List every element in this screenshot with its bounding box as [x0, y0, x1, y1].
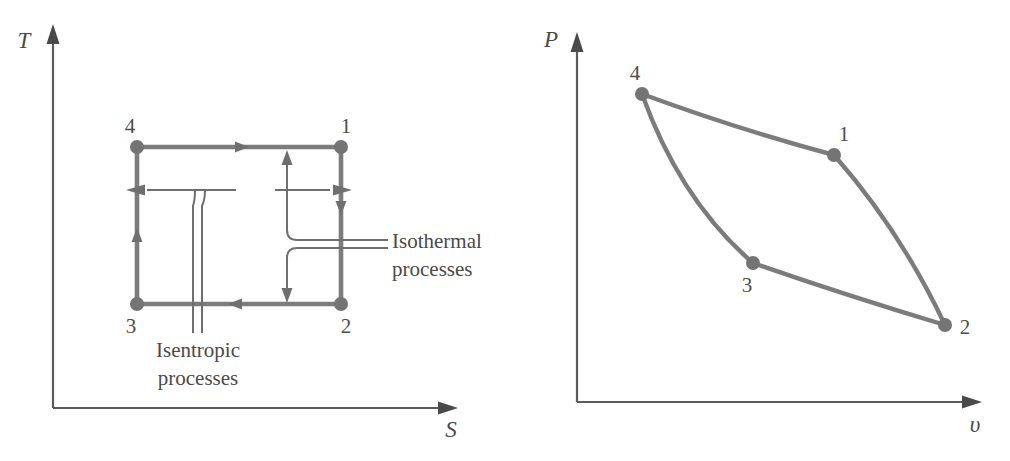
pv-state-point-2: [938, 318, 952, 332]
ts-state-point-2: [334, 297, 348, 311]
pv-state-label-3: 3: [742, 273, 753, 297]
ts-isothermal-leader-lower: [287, 248, 388, 292]
ts-state-label-1: 1: [341, 114, 352, 138]
ts-isothermal-callout-line2: processes: [392, 257, 472, 281]
ts-flow-arrow-right: [336, 201, 347, 215]
pv-state-point-4: [635, 87, 649, 101]
pv-state-label-2: 2: [960, 315, 971, 339]
figure-canvas: 4 1 2 3 T S Isothermal processes Isentro…: [0, 0, 1010, 461]
ts-isentropic-callout-line1: Isentropic: [156, 338, 240, 362]
pv-state-point-1: [827, 148, 841, 162]
pv-state-point-3: [746, 256, 760, 270]
ts-state-label-4: 4: [125, 114, 136, 138]
ts-isothermal-callout-line1: Isothermal: [392, 229, 482, 253]
ts-state-point-1: [334, 140, 348, 154]
ts-state-point-4: [130, 140, 144, 154]
ts-y-axis-arrowhead: [47, 24, 60, 44]
pv-process-3-to-4: [642, 94, 753, 263]
ts-diagram: 4 1 2 3 T S Isothermal processes Isentro…: [18, 24, 482, 442]
thermodynamic-cycle-figure: 4 1 2 3 T S Isothermal processes Isentro…: [0, 0, 1010, 461]
pv-state-label-1: 1: [839, 122, 850, 146]
ts-x-axis-arrowhead: [438, 402, 458, 415]
ts-isothermal-leader-lower-arrowhead: [282, 288, 293, 303]
ts-flow-arrow-left: [132, 228, 143, 242]
ts-y-axis-label: T: [18, 28, 33, 53]
pv-diagram: 4 1 2 3 P υ: [543, 27, 982, 437]
ts-isentropic-callout-line2: processes: [158, 366, 238, 390]
ts-state-label-3: 3: [126, 314, 137, 338]
ts-isentropic-leader-right: [202, 190, 205, 333]
pv-process-1-to-2: [834, 155, 945, 325]
pv-y-axis-label: P: [543, 27, 558, 52]
pv-y-axis-arrowhead: [571, 32, 584, 52]
pv-process-4-to-1: [642, 94, 834, 155]
ts-x-axis-label: S: [445, 417, 457, 442]
pv-x-axis-arrowhead: [962, 396, 982, 409]
pv-state-label-4: 4: [630, 61, 641, 85]
ts-state-label-2: 2: [341, 314, 352, 338]
ts-flow-arrow-top: [235, 142, 249, 153]
ts-state-point-3: [130, 297, 144, 311]
ts-isentropic-leader-left: [193, 190, 195, 333]
ts-isothermal-leader-upper-arrowhead: [282, 150, 293, 165]
ts-flow-arrow-bottom: [228, 299, 242, 310]
pv-x-axis-label: υ: [970, 412, 981, 437]
ts-isothermal-leader-upper: [287, 160, 388, 240]
